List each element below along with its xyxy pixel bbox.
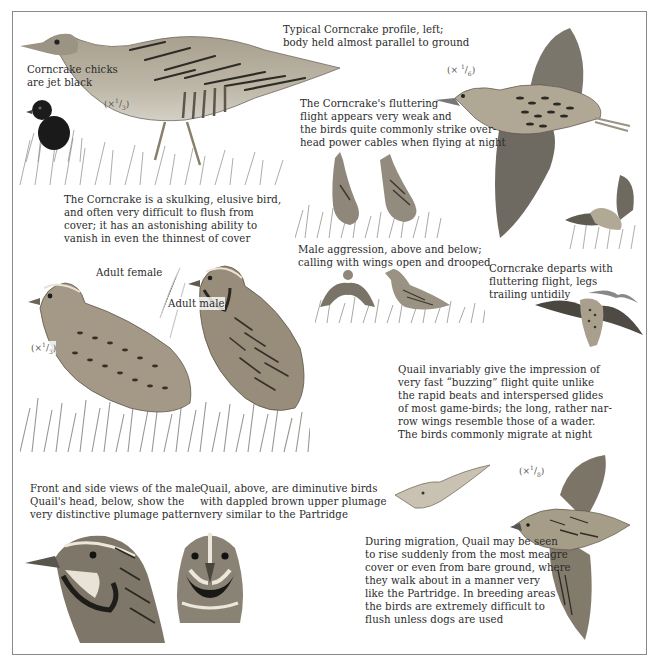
caption-quail-heads: Front and side views of the male Quail's…	[30, 482, 201, 521]
label-adult-female: Adult female	[96, 266, 162, 279]
corncrake-calling-illustration	[295, 150, 445, 240]
caption-corncrake-flight: The Corncrake's fluttering flight appear…	[300, 97, 506, 149]
label-adult-male: Adult male	[168, 297, 225, 310]
caption-male-aggression: Male aggression, above and below; callin…	[298, 243, 491, 269]
caption-corncrake-skulking: The Corncrake is a skulking, elusive bir…	[64, 193, 281, 245]
corncrake-departing-large-illustration	[535, 295, 645, 350]
caption-corncrake-profile: Typical Corncrake profile, left; body he…	[283, 23, 469, 49]
scale-quail-flying: (×1/8)	[519, 464, 544, 478]
quail-flying-small-illustration	[395, 460, 490, 510]
quail-head-side-illustration	[25, 528, 165, 643]
caption-quail-migration: During migration, Quail may be seen to r…	[365, 535, 571, 626]
quail-pair-illustration	[20, 258, 310, 453]
scale-quail-standing: (×1/3)	[31, 341, 56, 355]
corncrake-display-illustration	[315, 265, 485, 325]
corncrake-departing-illustration	[565, 175, 645, 250]
caption-quail-flight: Quail invariably give the impression of …	[398, 363, 612, 441]
scale-corncrake-flying: (× 1/6)	[447, 63, 475, 77]
quail-head-front-illustration	[170, 528, 250, 628]
caption-quail-diminutive: Quail, above, are diminutive birds with …	[200, 482, 387, 521]
scale-corncrake-standing: (×1/3)	[104, 97, 129, 111]
corncrake-chick-illustration	[24, 88, 84, 163]
caption-corncrake-chicks: Corncrake chicks are jet black	[27, 63, 118, 89]
caption-corncrake-departs: Corncrake departs with fluttering flight…	[489, 262, 613, 301]
